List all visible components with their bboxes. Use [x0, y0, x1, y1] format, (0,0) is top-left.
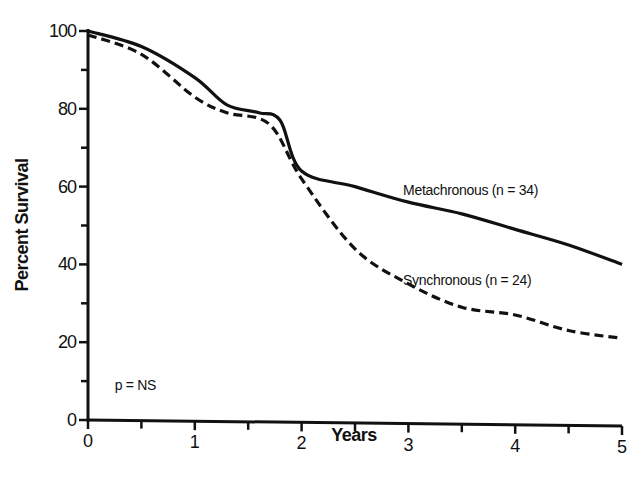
x-tick-label: 0 — [83, 431, 93, 451]
survival-chart: 020406080100012345 — [0, 0, 643, 485]
y-tick-label: 80 — [58, 99, 77, 119]
y-tick-label: 60 — [58, 177, 77, 197]
x-tick-label: 4 — [510, 436, 520, 456]
synchronous-label: Synchronous (n = 24) — [403, 272, 531, 288]
y-tick-label: 40 — [58, 254, 77, 274]
y-tick-label: 0 — [67, 410, 77, 430]
metachronous-curve — [88, 31, 622, 264]
axes — [88, 29, 622, 426]
metachronous-label: Metachronous (n = 34) — [403, 182, 538, 198]
x-axis-label: Years — [331, 425, 377, 446]
x-tick-label: 1 — [190, 432, 200, 452]
x-tick-label: 2 — [297, 433, 307, 453]
y-axis-label: Percent Survival — [12, 158, 33, 291]
series — [88, 31, 622, 338]
x-tick-label: 3 — [403, 435, 413, 455]
p-value-label: p = NS — [115, 377, 156, 393]
x-tick-label: 5 — [617, 437, 627, 457]
y-tick-label: 20 — [58, 332, 77, 352]
y-tick-label: 100 — [49, 21, 77, 41]
